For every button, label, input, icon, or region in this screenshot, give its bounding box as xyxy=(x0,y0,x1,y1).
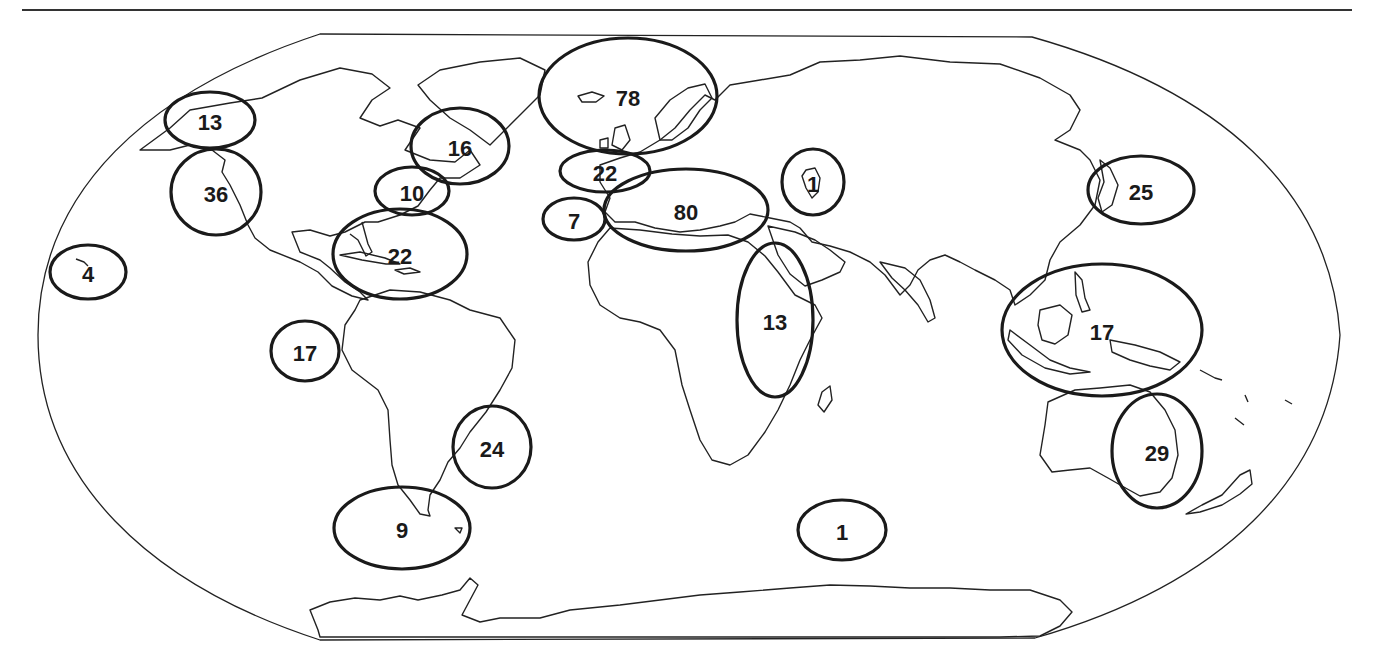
falklands-coast xyxy=(455,528,462,533)
region-marker-japan-korea[interactable]: 25 xyxy=(1088,156,1194,224)
south-america-coast xyxy=(342,290,515,516)
region-marker-southern-ocean[interactable]: 1 xyxy=(798,500,886,560)
borneo-coast xyxy=(1038,305,1072,344)
region-count: 13 xyxy=(198,110,222,135)
philippines-coast xyxy=(1075,272,1090,312)
region-count: 24 xyxy=(480,437,505,462)
region-marker-southeast-asia[interactable]: 17 xyxy=(1002,264,1202,396)
scandinavia-coast xyxy=(655,84,712,140)
region-marker-canary-islands[interactable]: 7 xyxy=(543,198,605,240)
british-isles-coast xyxy=(600,125,630,150)
region-count: 4 xyxy=(82,262,95,287)
region-count: 13 xyxy=(763,310,787,335)
region-count: 9 xyxy=(396,518,408,543)
region-count: 1 xyxy=(807,172,819,197)
region-marker-galapagos[interactable]: 17 xyxy=(271,321,339,381)
eurasia-coast xyxy=(600,56,1100,305)
region-count: 17 xyxy=(293,341,317,366)
region-marker-caspian[interactable]: 1 xyxy=(782,149,844,215)
region-marker-us-west-coast[interactable]: 36 xyxy=(171,149,261,235)
region-marker-hawaii[interactable]: 4 xyxy=(50,245,126,299)
region-marker-south-brazil[interactable]: 24 xyxy=(453,406,531,488)
iceland-coast xyxy=(578,92,604,102)
map-frame xyxy=(38,34,1340,640)
north-america-coast xyxy=(140,68,480,300)
region-count: 17 xyxy=(1090,320,1114,345)
region-count: 80 xyxy=(674,200,698,225)
region-marker-patagonia[interactable]: 9 xyxy=(334,487,470,569)
new-guinea-coast xyxy=(1110,340,1180,370)
region-count: 7 xyxy=(568,209,580,234)
greenland-coast xyxy=(418,58,545,145)
antarctica-coast xyxy=(310,578,1072,637)
region-count: 22 xyxy=(593,161,617,186)
india-coast xyxy=(880,262,935,322)
region-count: 10 xyxy=(400,181,424,206)
region-marker-canada-east[interactable]: 16 xyxy=(411,108,509,184)
region-marker-mediterranean[interactable]: 80 xyxy=(604,169,768,251)
region-marker-east-australia[interactable]: 29 xyxy=(1112,394,1202,508)
region-markers: 133641610221724978227801131251729 xyxy=(50,38,1202,569)
madagascar-coast xyxy=(818,386,832,412)
region-marker-north-europe[interactable]: 78 xyxy=(539,38,717,154)
region-marker-west-europe[interactable]: 22 xyxy=(560,150,650,192)
world-map: 133641610221724978227801131251729 xyxy=(0,0,1373,665)
pacific-islands-coast xyxy=(1200,370,1292,425)
region-marker-caribbean[interactable]: 22 xyxy=(333,209,467,299)
africa-coast xyxy=(588,228,822,465)
region-count: 25 xyxy=(1129,180,1153,205)
region-count: 1 xyxy=(836,520,848,545)
region-count: 16 xyxy=(448,136,472,161)
region-marker-us-northeast[interactable]: 10 xyxy=(375,167,449,215)
region-count: 29 xyxy=(1145,441,1169,466)
region-count: 22 xyxy=(388,244,412,269)
region-count: 36 xyxy=(204,182,228,207)
region-marker-east-africa-arabia[interactable]: 13 xyxy=(737,243,813,397)
region-count: 78 xyxy=(616,86,640,111)
